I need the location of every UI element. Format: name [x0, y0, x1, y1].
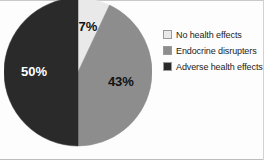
legend-label-1: Endocrine disrupters — [176, 46, 257, 56]
legend-swatch-icon-1 — [163, 46, 172, 55]
legend-label-0: No health effects — [176, 30, 242, 40]
legend-swatch-icon-0 — [163, 30, 172, 39]
pie-slice-value-label: 7% — [79, 19, 98, 34]
legend-item-endocrine-disrupters[interactable]: Endocrine disrupters — [163, 43, 263, 58]
pie-chart-svg: 7%43%50% — [4, 0, 152, 160]
legend-swatch-icon-2 — [163, 62, 172, 71]
chart-legend: No health effects Endocrine disrupters A… — [163, 27, 263, 75]
pie-chart: 7%43%50% — [4, 0, 152, 160]
legend-label-2: Adverse health effects — [176, 62, 263, 72]
legend-item-no-health-effects[interactable]: No health effects — [163, 27, 263, 42]
pie-chart-figure: 7%43%50% No health effects Endocrine dis… — [0, 0, 264, 160]
legend-item-adverse-health-effects[interactable]: Adverse health effects — [163, 59, 263, 74]
scan-edge-right — [263, 0, 264, 160]
pie-slice-value-label: 50% — [21, 64, 47, 79]
pie-slice-value-label: 43% — [108, 74, 134, 89]
